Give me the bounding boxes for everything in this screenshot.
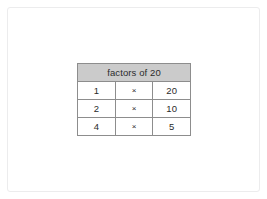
- factor-right-cell: 20: [153, 82, 191, 100]
- factors-table-header: factors of 20: [78, 64, 191, 82]
- multiply-operator-cell: ×: [115, 100, 153, 118]
- factor-left-cell: 4: [78, 118, 116, 136]
- multiply-operator-cell: ×: [115, 82, 153, 100]
- factor-left-cell: 1: [78, 82, 116, 100]
- table-row: 2 × 10: [78, 100, 191, 118]
- page-canvas: factors of 20 1 × 20 2 × 10 4 × 5: [0, 0, 267, 199]
- factor-right-cell: 10: [153, 100, 191, 118]
- table-row: 4 × 5: [78, 118, 191, 136]
- factor-left-cell: 2: [78, 100, 116, 118]
- table-header-row: factors of 20: [78, 64, 191, 82]
- factor-right-cell: 5: [153, 118, 191, 136]
- factors-table-container: factors of 20 1 × 20 2 × 10 4 × 5: [77, 63, 191, 134]
- table-title-cell: factors of 20: [78, 64, 191, 82]
- multiply-operator-cell: ×: [115, 118, 153, 136]
- table-row: 1 × 20: [78, 82, 191, 100]
- factors-table-body: 1 × 20 2 × 10 4 × 5: [78, 82, 191, 136]
- factors-table: factors of 20 1 × 20 2 × 10 4 × 5: [77, 63, 191, 136]
